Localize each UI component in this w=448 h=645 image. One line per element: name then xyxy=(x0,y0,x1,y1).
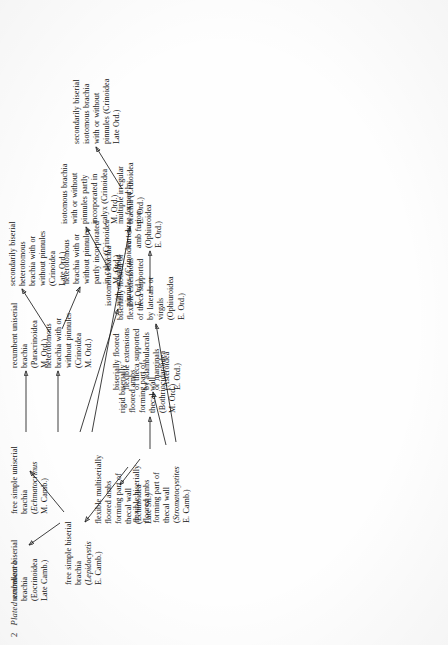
node-free-simple-uniserial: free simple uniserial brachia (Echmatocr… xyxy=(10,430,50,514)
node-recumbent-biserial: recumbent biserial brachia (Eocrinoidea … xyxy=(10,523,50,601)
node-isotomous-partly-incorporated: isotomous brachia with or without pinnul… xyxy=(60,140,121,224)
page-canvas: 2Plated ambulacra xyxy=(0,0,448,645)
node-root-taxon: (Stromatocystites xyxy=(172,466,181,523)
node-heterotomous-m-ord: heterotomous brachia with or without pin… xyxy=(44,296,94,368)
node-secondarily-biserial-isotomous: secondarily biserial isotomous brachia w… xyxy=(72,56,122,144)
node-flexible-multiserially: flexible multiserially floored ambs form… xyxy=(94,444,155,524)
diagram-stage: 2Plated ambulacra xyxy=(0,0,448,645)
